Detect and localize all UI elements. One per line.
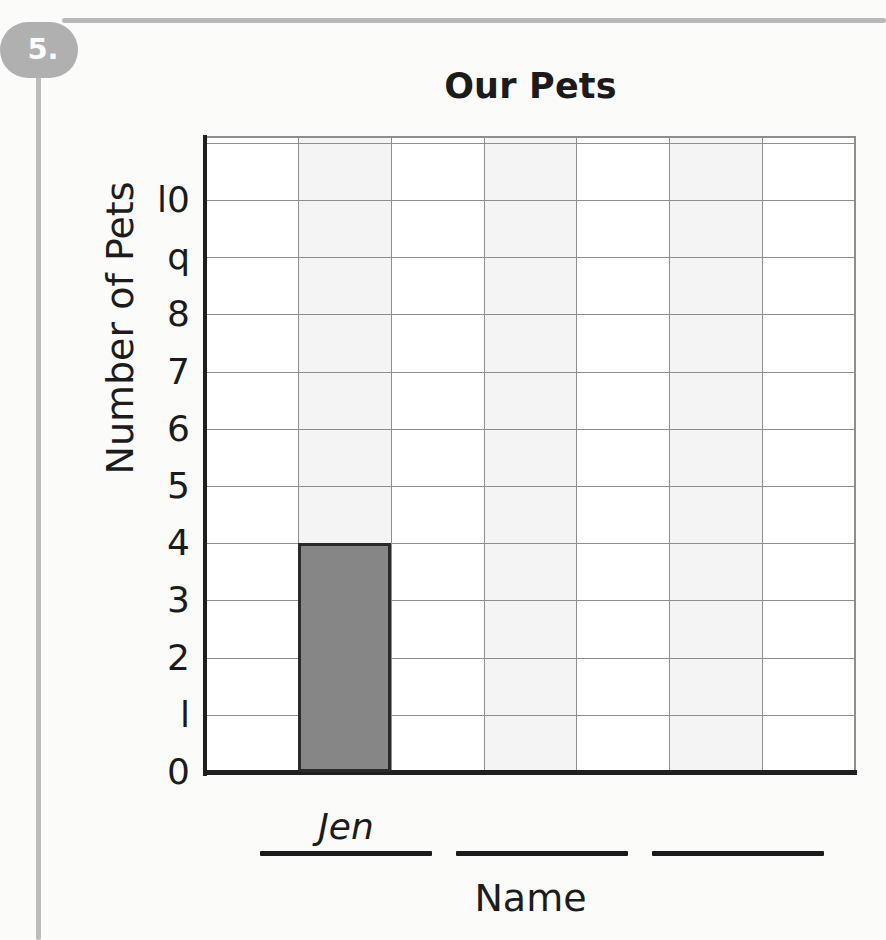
- x-axis-title: Name: [205, 876, 856, 920]
- name-answer-lines: Jen: [0, 0, 886, 940]
- answer-line-rule[interactable]: [652, 851, 824, 856]
- answer-line-value: Jen: [260, 806, 432, 847]
- answer-line-rule[interactable]: [456, 851, 628, 856]
- answer-line-rule[interactable]: [260, 851, 432, 856]
